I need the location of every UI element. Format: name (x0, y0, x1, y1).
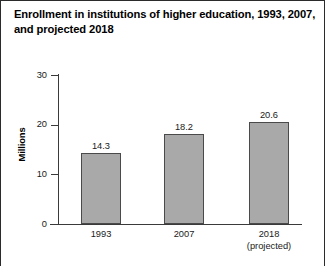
y-tick-mark-20 (51, 125, 59, 126)
x-axis-label-2007: 2007 (154, 229, 214, 241)
x-axis-label-1993-text: 1993 (91, 229, 112, 239)
x-axis-label-2018: 2018 (projected) (239, 229, 299, 252)
y-tick-mark-0 (51, 224, 59, 225)
y-tick-label-0: 0 (21, 220, 47, 229)
y-tick-20: 20 (1, 120, 47, 130)
figure-title-line-1: Enrollment in institutions of higher edu… (14, 7, 314, 22)
x-axis-label-2007-text: 2007 (174, 229, 195, 239)
chart-figure: Enrollment in institutions of higher edu… (0, 0, 325, 266)
bar-1993 (81, 153, 121, 224)
figure-title-line-2: and projected 2018 (14, 22, 314, 37)
bar-chart: Millions 30 20 10 0 14.3 1993 18.2 2007 (1, 43, 325, 266)
x-axis-line (50, 224, 302, 225)
y-axis-line (58, 74, 59, 225)
x-axis-sublabel-2018: (projected) (239, 241, 299, 253)
y-tick-label-30: 30 (21, 71, 47, 80)
bar-value-1993: 14.3 (71, 141, 131, 151)
figure-title: Enrollment in institutions of higher edu… (14, 7, 314, 36)
bar-value-2007: 18.2 (154, 122, 214, 132)
y-tick-30: 30 (1, 71, 47, 81)
bar-value-2018: 20.6 (239, 110, 299, 120)
y-tick-mark-30 (51, 75, 59, 76)
y-tick-0: 0 (1, 220, 47, 230)
y-tick-label-10: 10 (21, 170, 47, 179)
bar-2007 (164, 134, 204, 224)
y-tick-mark-10 (51, 174, 59, 175)
x-axis-label-1993: 1993 (71, 229, 131, 241)
y-tick-label-20: 20 (21, 120, 47, 129)
y-tick-10: 10 (1, 170, 47, 180)
x-axis-label-2018-text: 2018 (259, 229, 280, 239)
bar-2018 (249, 122, 289, 224)
